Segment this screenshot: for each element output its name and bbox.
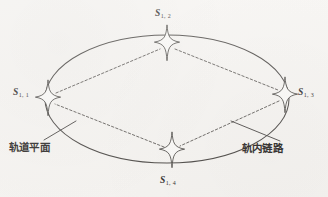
- intra-orbit-link-group: [55, 49, 279, 147]
- satellite-label-s14-sub: 1, 4: [166, 180, 176, 186]
- satellite-label-s13: S1, 3: [298, 88, 314, 98]
- link-s12-s13: [175, 49, 278, 90]
- satellite-label-s11-main: S: [13, 87, 18, 97]
- link-s11-s12: [56, 49, 160, 93]
- diagram-canvas: [0, 0, 328, 197]
- satellite-label-s11-sub: 1, 1: [19, 92, 29, 98]
- satellite-label-s13-sub: 1, 3: [304, 92, 314, 98]
- annotation-intra-orbit-link: 轨内链路: [242, 143, 283, 154]
- satellite-label-s11: S1, 1: [13, 88, 29, 98]
- satellite-label-s12: S1, 2: [155, 9, 171, 19]
- annotation-orbital-plane: 轨道平面: [9, 142, 50, 153]
- link-s13-s14: [180, 101, 279, 146]
- annotation-leader-group: [44, 121, 280, 141]
- orbital-plane-figure: S1, 1 S1, 2 S1, 3 S1, 4 轨道平面 轨内链路: [0, 0, 328, 197]
- satellite-label-s12-sub: 1, 2: [161, 13, 171, 19]
- satellite-label-s14-main: S: [160, 175, 165, 185]
- leader-line-orbital-plane: [44, 121, 76, 140]
- satellite-label-s14: S1, 4: [160, 176, 176, 186]
- satellite-marker-s13: [272, 77, 297, 113]
- satellite-marker-s11: [35, 80, 60, 116]
- satellite-label-s13-main: S: [298, 87, 303, 97]
- satellite-label-s12-main: S: [155, 8, 160, 18]
- satellite-marker-s12: [154, 25, 179, 61]
- link-s14-s11: [55, 104, 164, 147]
